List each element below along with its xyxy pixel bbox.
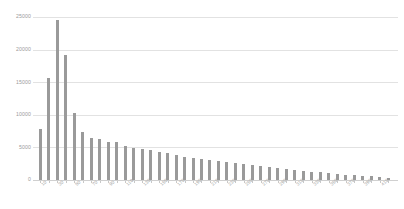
x-tick-label: 70	[92, 180, 99, 187]
y-tick-label: 0	[1, 177, 31, 182]
bar	[217, 161, 220, 180]
x-tick-mark	[320, 181, 321, 183]
x-tick-label: 10	[41, 180, 48, 187]
bar	[259, 166, 262, 180]
x-tick-label: 30	[58, 180, 65, 187]
bar	[124, 146, 127, 180]
bar-chart: 0500010000150002000025000 10305070901101…	[0, 0, 404, 209]
x-tick-mark	[185, 181, 186, 183]
x-tick-mark	[168, 181, 169, 183]
x-tick-mark	[235, 181, 236, 183]
bar	[200, 159, 203, 180]
x-tick-mark	[337, 181, 338, 183]
x-tick-mark	[201, 181, 202, 183]
x-tick-mark	[117, 181, 118, 183]
y-tick-label: 5000	[1, 145, 31, 150]
x-axis: 1030507090110130150170190210230250270290…	[33, 181, 398, 209]
x-tick-mark	[134, 181, 135, 183]
gridline	[33, 147, 398, 148]
y-tick-label: 15000	[1, 80, 31, 85]
plot-area	[33, 17, 398, 180]
gridline	[33, 115, 398, 116]
x-tick-mark	[66, 181, 67, 183]
gridline	[33, 82, 398, 83]
bar	[183, 157, 186, 180]
bar	[225, 162, 228, 180]
gridline	[33, 17, 398, 18]
bar	[98, 139, 101, 180]
bar	[90, 138, 93, 180]
bar	[47, 78, 50, 180]
bar	[293, 170, 296, 180]
bar	[64, 55, 67, 180]
x-tick-mark	[269, 181, 270, 183]
bar	[310, 172, 313, 180]
y-tick-label: 10000	[1, 112, 31, 117]
x-tick-mark	[354, 181, 355, 183]
x-tick-mark	[286, 181, 287, 183]
x-tick-label: 90	[109, 180, 116, 187]
x-tick-mark	[388, 181, 389, 183]
bar	[56, 20, 59, 180]
bar	[192, 158, 195, 180]
y-tick-label: 25000	[1, 14, 31, 19]
bar	[73, 113, 76, 180]
x-tick-mark	[303, 181, 304, 183]
x-tick-label: 50	[75, 180, 82, 187]
bar	[81, 132, 84, 180]
bar	[175, 155, 178, 180]
y-tick-label: 20000	[1, 47, 31, 52]
bar	[149, 150, 152, 180]
bar	[132, 148, 135, 180]
bar	[327, 173, 330, 180]
bar	[115, 142, 118, 180]
gridline	[33, 50, 398, 51]
bar	[158, 152, 161, 180]
bar	[276, 168, 279, 180]
x-tick-mark	[218, 181, 219, 183]
x-tick-mark	[371, 181, 372, 183]
bar	[141, 149, 144, 180]
x-tick-mark	[49, 181, 50, 183]
bar	[251, 165, 254, 180]
bar	[166, 153, 169, 180]
bar	[234, 163, 237, 180]
bar	[208, 160, 211, 180]
bar	[39, 129, 42, 181]
x-tick-mark	[252, 181, 253, 183]
x-tick-mark	[151, 181, 152, 183]
bar	[107, 142, 110, 180]
x-tick-mark	[100, 181, 101, 183]
x-tick-mark	[83, 181, 84, 183]
y-axis: 0500010000150002000025000	[0, 0, 31, 209]
bar	[242, 164, 245, 180]
